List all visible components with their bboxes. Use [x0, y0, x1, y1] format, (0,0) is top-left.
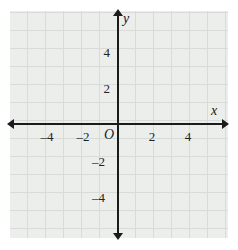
x-axis-label: x — [211, 104, 217, 118]
y-tick-label-2: 2 — [86, 82, 110, 95]
y-tick-label-4: 4 — [86, 46, 110, 59]
x-axis-arrow-left-icon — [7, 119, 14, 129]
y-axis-label: y — [123, 12, 129, 26]
y-tick-label-neg2: –2 — [81, 155, 105, 168]
y-axis-arrow-up-icon — [113, 9, 123, 16]
coordinate-plane-figure: –4 –2 2 4 4 2 –2 –4 O x y — [0, 0, 238, 250]
x-tick-label-2: 2 — [140, 130, 164, 143]
x-tick-label-neg2: –2 — [71, 130, 95, 143]
origin-label: O — [104, 128, 114, 142]
x-axis-arrow-right-icon — [222, 119, 229, 129]
x-tick-label-neg4: –4 — [35, 130, 59, 143]
x-tick-label-4: 4 — [176, 130, 200, 143]
y-axis-line — [117, 14, 119, 235]
y-tick-label-neg4: –4 — [81, 191, 105, 204]
y-axis-arrow-down-icon — [113, 233, 123, 240]
